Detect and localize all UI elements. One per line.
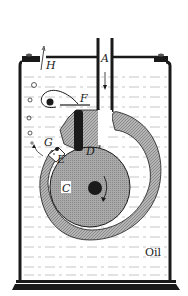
exhaust-vent-h: H xyxy=(41,46,56,72)
label-a: A xyxy=(100,52,109,65)
label-c: C xyxy=(62,182,71,195)
inlet-tube-a: A xyxy=(98,38,112,112)
label-g: G xyxy=(44,136,53,149)
pump-diagram: H A B C D F xyxy=(0,0,188,296)
label-f: F xyxy=(79,92,88,105)
rotor-shaft xyxy=(88,181,102,195)
spring-f: F xyxy=(41,90,90,107)
label-oil: Oil xyxy=(145,246,162,259)
label-h: H xyxy=(45,59,56,72)
label-d: D xyxy=(85,145,95,158)
label-e: E xyxy=(56,153,65,166)
exhaust-bubbles xyxy=(27,83,37,145)
